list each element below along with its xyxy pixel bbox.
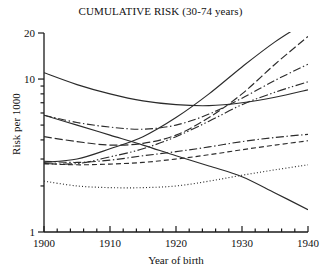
curve-solid-ushaped	[44, 73, 308, 106]
curve-dashed-flat	[44, 141, 308, 165]
x-tick-label: 1920	[165, 237, 188, 249]
curve-dashdot-rising	[44, 64, 308, 129]
data-series	[44, 21, 308, 210]
x-tick-label: 1900	[33, 237, 56, 249]
curve-dotted-rising	[44, 165, 308, 188]
curve-steep-solid-rising	[44, 21, 308, 163]
y-tick-label: 10	[24, 73, 36, 85]
y-tick-label: 20	[24, 27, 36, 39]
axes	[38, 33, 308, 232]
curve-dashdot-flat	[44, 134, 308, 162]
curve-longdash-rising	[44, 36, 308, 145]
x-tick-label: 1910	[99, 237, 122, 249]
tick-labels: 1102019001910192019301940	[24, 27, 320, 249]
chart-figure: CUMULATIVE RISK (30-74 years) Risk per 1…	[0, 0, 321, 271]
x-tick-label: 1940	[297, 237, 320, 249]
x-tick-label: 1930	[231, 237, 254, 249]
plot-area: 1102019001910192019301940	[0, 0, 321, 271]
